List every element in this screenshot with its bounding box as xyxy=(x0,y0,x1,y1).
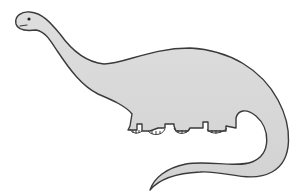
dinosaur-body xyxy=(16,12,289,190)
eye-icon xyxy=(27,17,30,20)
dinosaur-illustration xyxy=(0,0,302,196)
